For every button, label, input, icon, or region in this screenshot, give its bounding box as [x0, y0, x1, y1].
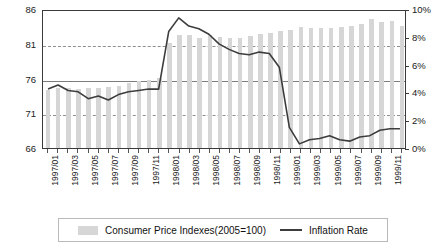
- x-axis-tick: [300, 149, 301, 153]
- x-axis-tick: [47, 149, 48, 153]
- x-axis-tick-label: 1998/05: [212, 155, 221, 186]
- x-axis-tick: [118, 149, 119, 153]
- x-axis-tick: [270, 149, 271, 153]
- left-axis: 6671768186: [0, 10, 40, 149]
- x-axis-tick: [249, 149, 250, 153]
- line-series: [43, 11, 405, 148]
- plot-area: [42, 10, 406, 149]
- x-axis-tick-label: 1997/11: [152, 155, 161, 185]
- x-axis-tick: [168, 149, 169, 153]
- x-axis-tick: [158, 149, 159, 153]
- x-axis-tick: [229, 149, 230, 153]
- right-axis-tick: [405, 66, 409, 67]
- legend-item-cpi: Consumer Price Indexes(2005=100): [78, 225, 266, 236]
- left-axis-tick-label: 76: [25, 75, 36, 85]
- right-axis-tick: [405, 121, 409, 122]
- x-axis-tick: [148, 149, 149, 153]
- x-axis-tick: [350, 149, 351, 153]
- legend-bar-swatch: [78, 226, 98, 235]
- x-axis-tick-label: 1997/05: [91, 155, 100, 186]
- x-axis-tick-label: 1997/01: [51, 155, 60, 186]
- right-axis-tick-label: 6%: [412, 61, 426, 71]
- x-axis-tick-label: 1999/01: [293, 155, 302, 186]
- left-axis-tick-label: 71: [25, 109, 36, 119]
- right-axis-tick: [405, 38, 409, 39]
- right-axis: 0%2%4%6%8%10%: [409, 10, 444, 149]
- legend-item-inflation: Inflation Rate: [280, 225, 368, 236]
- right-axis-tick-label: 4%: [412, 88, 426, 98]
- x-axis-tick: [209, 149, 210, 153]
- x-axis-tick: [401, 149, 402, 153]
- x-axis-tick-label: 1998/01: [172, 155, 181, 186]
- left-axis-tick-label: 81: [25, 40, 36, 50]
- x-axis-tick: [77, 149, 78, 153]
- x-axis-tick-label: 1997/03: [71, 155, 80, 186]
- legend-label-inflation: Inflation Rate: [309, 225, 368, 236]
- x-axis-tick: [199, 149, 200, 153]
- x-axis-tick: [88, 149, 89, 153]
- x-axis-tick: [239, 149, 240, 153]
- x-axis-tick: [330, 149, 331, 153]
- x-axis-tick: [128, 149, 129, 153]
- x-axis-tick: [361, 149, 362, 153]
- x-axis-tick: [67, 149, 68, 153]
- x-axis-tick-label: 1997/09: [131, 155, 140, 186]
- x-axis-tick: [108, 149, 109, 153]
- right-axis-tick: [405, 93, 409, 94]
- right-axis-tick-label: 0%: [412, 144, 426, 154]
- plot-inner: [43, 11, 405, 148]
- x-axis-tick: [290, 149, 291, 153]
- chart-container: 6671768186 0%2%4%6%8%10% 1997/011997/031…: [0, 0, 444, 251]
- left-axis-tick-label: 86: [25, 5, 36, 15]
- x-axis-tick-label: 1998/03: [192, 155, 201, 186]
- x-axis-tick: [391, 149, 392, 153]
- x-axis-tick: [340, 149, 341, 153]
- x-axis-tick-label: 1998/07: [233, 155, 242, 186]
- x-axis-tick-label: 1999/03: [313, 155, 322, 186]
- x-axis-tick: [310, 149, 311, 153]
- x-axis-tick: [98, 149, 99, 153]
- x-axis-tick-label: 1997/07: [111, 155, 120, 186]
- x-axis-labels: 1997/011997/031997/051997/071997/091997/…: [42, 155, 406, 211]
- x-axis-ticks: [42, 149, 406, 154]
- x-axis-tick: [259, 149, 260, 153]
- left-axis-tick-label: 66: [25, 144, 36, 154]
- legend-line-swatch: [280, 229, 302, 231]
- x-axis-tick-label: 1999/05: [334, 155, 343, 186]
- chart-legend: Consumer Price Indexes(2005=100) Inflati…: [58, 218, 388, 242]
- right-axis-tick-label: 10%: [412, 5, 431, 15]
- legend-label-cpi: Consumer Price Indexes(2005=100): [105, 225, 266, 236]
- right-axis-tick-label: 2%: [412, 116, 426, 126]
- x-axis-tick: [189, 149, 190, 153]
- right-axis-tick-label: 8%: [412, 33, 426, 43]
- x-axis-tick-label: 1999/11: [394, 155, 403, 185]
- x-axis-tick: [381, 149, 382, 153]
- x-axis-tick-label: 1998/11: [273, 155, 282, 185]
- x-axis-tick: [179, 149, 180, 153]
- x-axis-tick-label: 1999/09: [374, 155, 383, 186]
- x-axis-tick-label: 1999/07: [354, 155, 363, 186]
- inflation-rate-line: [48, 18, 400, 144]
- x-axis-tick: [219, 149, 220, 153]
- x-axis-tick: [371, 149, 372, 153]
- x-axis-tick: [320, 149, 321, 153]
- right-axis-tick: [405, 10, 409, 11]
- x-axis-tick: [57, 149, 58, 153]
- x-axis-tick-label: 1998/09: [253, 155, 262, 186]
- x-axis-tick: [280, 149, 281, 153]
- x-axis-tick: [138, 149, 139, 153]
